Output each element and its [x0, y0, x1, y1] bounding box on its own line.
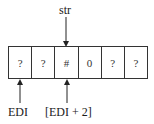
- memory-cells: ? ? # 0 ? ?: [8, 46, 148, 79]
- edi-plus-2-label: [EDI + 2]: [45, 106, 92, 118]
- memory-cell: ?: [32, 47, 55, 78]
- memory-cell: #: [55, 47, 78, 78]
- memory-cell: ?: [9, 47, 32, 78]
- memory-cell: ?: [102, 47, 125, 78]
- edi-label: EDI: [8, 106, 28, 118]
- memory-cell: 0: [79, 47, 102, 78]
- memory-cell: ?: [125, 47, 147, 78]
